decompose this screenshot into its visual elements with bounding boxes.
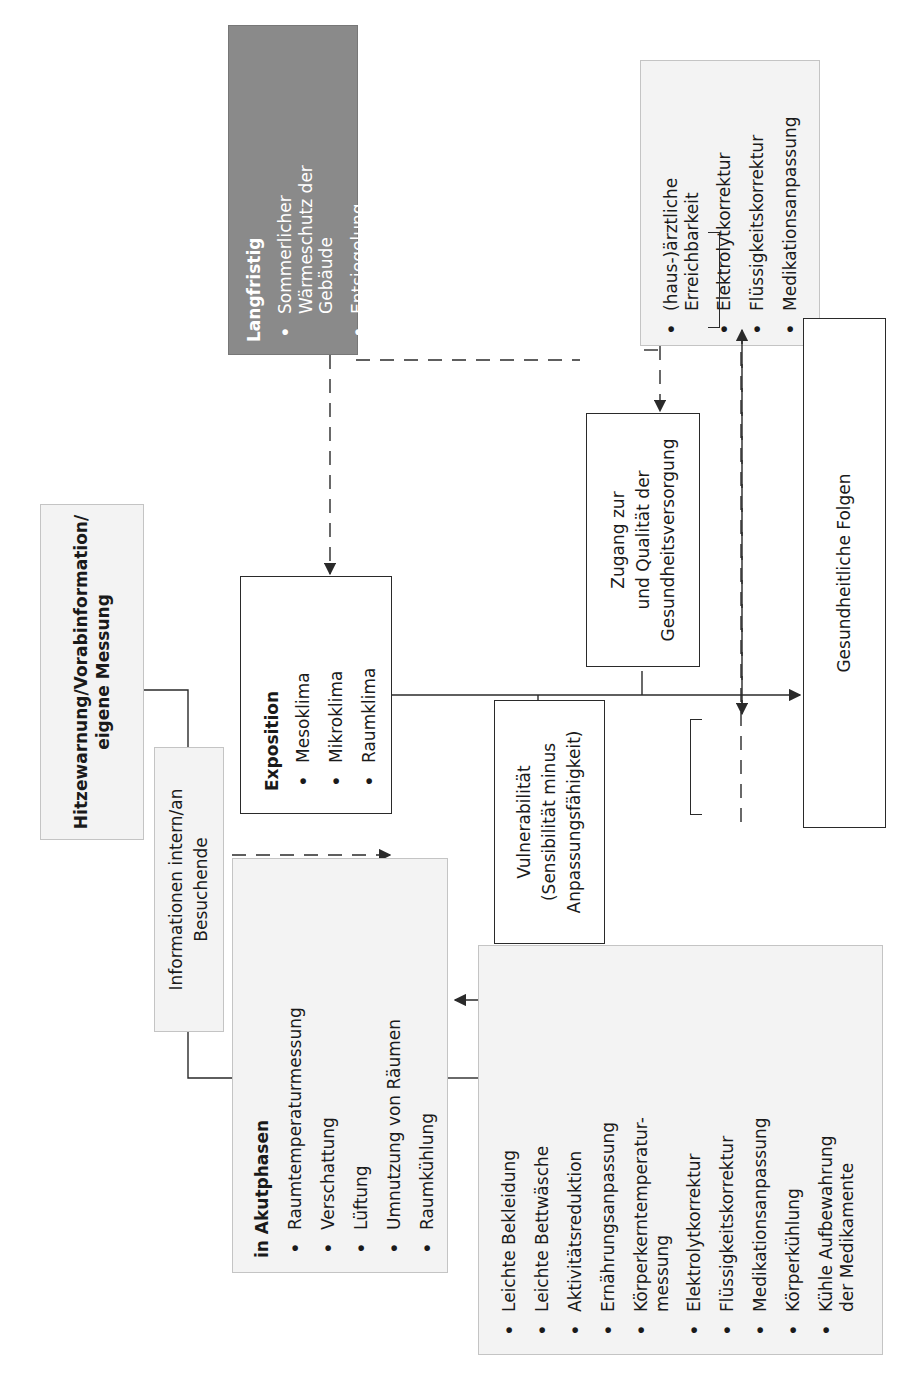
diagram-canvas: Hitzewarnung/Vorabinformation/ eigene Me… [0, 0, 909, 1390]
connector-arrows [0, 0, 909, 1390]
